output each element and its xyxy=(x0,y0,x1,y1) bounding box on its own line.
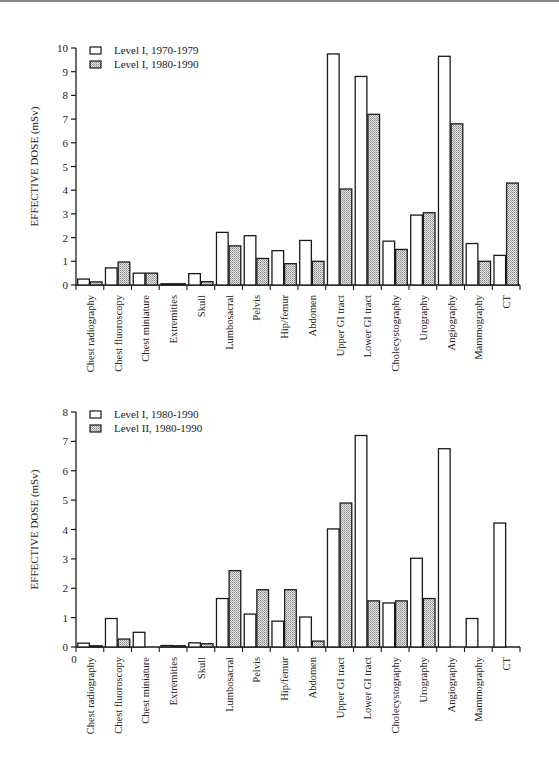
y-tick-label: 3 xyxy=(63,553,69,565)
bar xyxy=(368,601,380,647)
y-tick-label: 2 xyxy=(63,582,69,594)
x-category-label: Abdomen xyxy=(307,656,318,698)
x-category-label: Pelvis xyxy=(251,657,262,683)
x-category-label: Urography xyxy=(418,294,429,340)
bar xyxy=(174,646,186,647)
legend-label: Level I, 1980-1990 xyxy=(114,408,199,420)
bar xyxy=(466,244,478,285)
x-category-label: Chest miniature xyxy=(140,295,151,362)
bar xyxy=(133,273,145,285)
y-tick-label: 5 xyxy=(63,161,69,173)
bar xyxy=(383,603,395,647)
bar xyxy=(201,644,213,647)
origin-label: 0 xyxy=(71,653,77,665)
x-category-label: Chest fluoroscopy xyxy=(113,294,124,371)
bar xyxy=(411,215,423,285)
x-category-label: Chest radiography xyxy=(85,656,96,734)
y-tick-label: 4 xyxy=(63,524,69,536)
bar xyxy=(90,646,102,647)
x-category-label: Chest fluoroscopy xyxy=(113,656,124,733)
chart-bottom-level-i-vs-ii: 012345678EFFECTIVE DOSE (mSv)Chest radio… xyxy=(0,390,559,774)
y-tick-label: 1 xyxy=(63,255,69,267)
bar xyxy=(174,284,186,285)
y-tick-label: 4 xyxy=(63,184,69,196)
legend-swatch xyxy=(90,47,101,54)
bar xyxy=(494,523,506,647)
bar xyxy=(368,114,380,285)
y-tick-label: 8 xyxy=(63,89,69,101)
bar xyxy=(479,261,491,285)
y-tick-label: 2 xyxy=(63,232,69,244)
bar xyxy=(78,643,90,647)
y-tick-label: 9 xyxy=(63,66,69,78)
x-category-label: Urography xyxy=(418,656,429,702)
bar xyxy=(161,284,173,285)
bar xyxy=(494,255,506,285)
legend-label: Level II, 1980-1990 xyxy=(114,422,203,434)
bar xyxy=(312,641,324,647)
bar xyxy=(355,436,367,648)
y-tick-label: 6 xyxy=(63,465,69,477)
bar xyxy=(189,643,201,647)
bar xyxy=(229,571,241,647)
bar xyxy=(355,76,367,285)
x-category-label: Upper GI tract xyxy=(335,657,346,718)
y-tick-label: 7 xyxy=(63,435,69,447)
bar xyxy=(90,282,102,285)
bar xyxy=(257,258,269,285)
x-category-label: Extremities xyxy=(168,657,179,705)
bar xyxy=(285,590,297,647)
bar xyxy=(300,240,312,285)
legend: Level I, 1980-1990Level II, 1980-1990 xyxy=(90,408,203,434)
y-tick-label: 0 xyxy=(63,641,69,653)
bar xyxy=(507,183,519,285)
bar xyxy=(105,268,117,285)
y-tick-label: 1 xyxy=(63,612,69,624)
x-category-label: Cholecystography xyxy=(390,294,401,371)
y-tick-label: 3 xyxy=(63,208,69,220)
bar xyxy=(396,249,408,285)
bar xyxy=(340,503,352,647)
x-category-label: Cholecystography xyxy=(390,656,401,733)
bar xyxy=(423,213,435,285)
legend-swatch xyxy=(90,411,101,418)
bar xyxy=(272,621,284,647)
y-axis-label: EFFECTIVE DOSE (mSv) xyxy=(28,469,41,589)
x-category-label: Abdomen xyxy=(307,294,318,336)
y-tick-label: 10 xyxy=(57,42,69,54)
x-category-label: Hip/femur xyxy=(279,295,290,339)
x-category-label: Pelvis xyxy=(251,295,262,321)
bar xyxy=(340,189,352,285)
bar xyxy=(423,599,435,647)
bar xyxy=(118,262,130,285)
x-category-label: Chest radiography xyxy=(85,294,96,372)
legend: Level I, 1970-1979Level I, 1980-1990 xyxy=(90,44,199,70)
bar xyxy=(327,54,339,285)
chart-top-level-i-comparison: 012345678910EFFECTIVE DOSE (mSv)Chest ra… xyxy=(0,0,559,390)
legend-label: Level I, 1970-1979 xyxy=(114,44,199,56)
bar xyxy=(285,264,297,285)
y-tick-label: 7 xyxy=(63,113,69,125)
y-axis-label: EFFECTIVE DOSE (mSv) xyxy=(28,106,41,226)
bar xyxy=(272,251,284,285)
x-category-label: Hip/femur xyxy=(279,657,290,701)
x-category-label: Lumbosacral xyxy=(224,657,235,712)
bar xyxy=(257,590,269,647)
bar xyxy=(105,619,117,647)
bar xyxy=(146,273,158,285)
x-category-label: Lower GI tract xyxy=(362,295,373,357)
y-tick-label: 8 xyxy=(63,406,69,418)
x-category-label: Lumbosacral xyxy=(224,295,235,350)
x-category-label: Upper GI tract xyxy=(335,295,346,356)
x-category-label: Lower GI tract xyxy=(362,657,373,719)
bar xyxy=(118,639,130,647)
bar xyxy=(327,529,339,647)
bar xyxy=(78,279,90,285)
x-category-label: Skull xyxy=(196,295,207,317)
bar xyxy=(216,599,228,647)
legend-label: Level I, 1980-1990 xyxy=(114,58,199,70)
x-category-label: CT xyxy=(501,656,512,670)
y-tick-label: 0 xyxy=(63,279,69,291)
x-category-label: Skull xyxy=(196,657,207,679)
x-category-label: Mammography xyxy=(473,294,484,359)
